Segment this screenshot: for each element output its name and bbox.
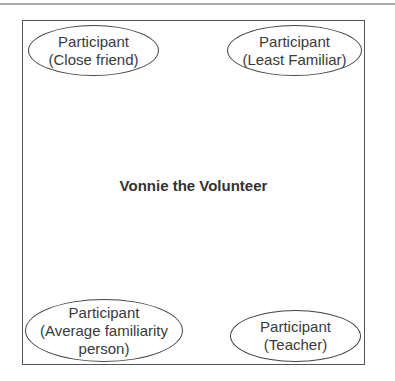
participant-teacher-node: Participant (Teacher) <box>230 310 361 362</box>
participant-average-familiarity-node: Participant (Average familiarity person) <box>25 299 183 362</box>
node-label-line2: (Close friend) <box>48 51 138 69</box>
participant-close-friend-node: Participant (Close friend) <box>28 25 159 76</box>
node-label-line2: (Least Familiar) <box>242 51 346 69</box>
participant-least-familiar-node: Participant (Least Familiar) <box>227 25 362 76</box>
node-label-line2: (Teacher) <box>264 336 327 354</box>
center-label: Vonnie the Volunteer <box>22 177 365 194</box>
node-label-line3: person) <box>79 340 130 358</box>
node-label-line1: Participant <box>259 33 330 51</box>
top-divider-line <box>0 3 395 5</box>
node-label-line1: Participant <box>260 318 331 336</box>
node-label-line1: Participant <box>69 304 140 322</box>
node-label-line1: Participant <box>58 33 129 51</box>
node-label-line2: (Average familiarity <box>40 322 168 340</box>
